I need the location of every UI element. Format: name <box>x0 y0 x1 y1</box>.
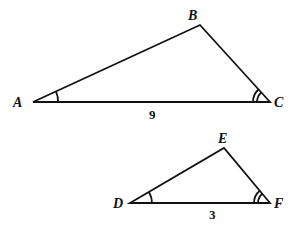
triangle-abc <box>33 25 270 102</box>
similar-triangles-diagram: A B C 9 D E F 3 <box>0 0 300 228</box>
side-df-length: 3 <box>209 207 216 222</box>
vertex-label-e: E <box>217 131 227 146</box>
vertex-label-c: C <box>274 95 284 110</box>
vertex-label-a: A <box>12 95 22 110</box>
angle-d-arc <box>149 192 152 203</box>
side-ac-length: 9 <box>149 107 156 122</box>
angle-f-arc-inner <box>258 194 262 203</box>
angle-a-arc <box>56 92 58 103</box>
vertex-label-b: B <box>187 8 197 23</box>
vertex-label-d: D <box>112 196 123 211</box>
angle-c-arc-inner <box>257 92 261 102</box>
vertex-label-f: F <box>273 196 284 211</box>
triangle-def <box>130 148 270 203</box>
